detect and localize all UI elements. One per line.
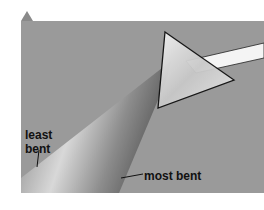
- prism: [158, 32, 234, 108]
- prism-diagram: [21, 21, 264, 193]
- most-bent-label: most bent: [144, 169, 201, 183]
- triangle-marker-icon: [21, 7, 33, 17]
- least-bent-label: least bent: [25, 128, 52, 156]
- prism-illustration: least bent most bent: [21, 21, 264, 193]
- least-bent-label-line2: bent: [25, 142, 52, 156]
- least-bent-label-line1: least: [25, 128, 52, 142]
